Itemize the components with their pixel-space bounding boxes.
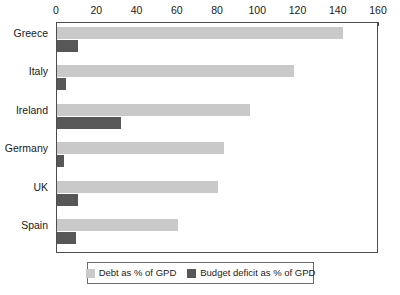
x-axis-tick-label: 20 [90,5,102,16]
bar-italy-deficit [57,78,66,90]
chart-legend: Debt as % of GPD Budget deficit as % of … [87,262,314,284]
x-axis-tick-label: 160 [369,5,387,16]
bar-greece-deficit [57,40,78,52]
x-axis-tick-label: 100 [248,5,266,16]
category-label-greece: Greece [14,27,48,39]
bar-ireland-debt [57,104,250,116]
bar-spain-debt [57,219,178,231]
category-label-italy: Italy [29,65,48,77]
legend-swatch-deficit-icon [187,269,196,278]
bar-chart: 020406080100120140160 GreeceItalyIreland… [0,0,400,295]
x-axis-tick-label: 60 [171,5,183,16]
legend-label-debt: Debt as % of GPD [99,268,177,278]
category-label-uk: UK [33,181,48,193]
x-axis-tick-label: 120 [289,5,307,16]
y-axis-category-labels: GreeceItalyIrelandGermanyUKSpain [0,22,52,253]
x-axis-tick [378,22,379,26]
category-label-spain: Spain [21,219,48,231]
category-label-germany: Germany [5,142,48,154]
x-axis-tick-label: 80 [211,5,223,16]
legend-entry-debt: Debt as % of GPD [86,268,177,278]
legend-label-deficit: Budget deficit as % of GPD [200,268,315,278]
x-axis-tick-label: 40 [131,5,143,16]
bar-uk-debt [57,181,218,193]
bars-layer [57,23,377,252]
bar-uk-deficit [57,194,78,206]
category-label-ireland: Ireland [16,104,48,116]
x-axis-tick-label: 0 [53,5,59,16]
bar-greece-debt [57,27,343,39]
bar-germany-deficit [57,155,64,167]
bar-ireland-deficit [57,117,121,129]
bar-germany-debt [57,142,224,154]
legend-swatch-debt-icon [86,269,95,278]
legend-entry-deficit: Budget deficit as % of GPD [187,268,315,278]
bar-italy-debt [57,65,294,77]
x-axis-tick-label: 140 [329,5,347,16]
bar-spain-deficit [57,232,76,244]
